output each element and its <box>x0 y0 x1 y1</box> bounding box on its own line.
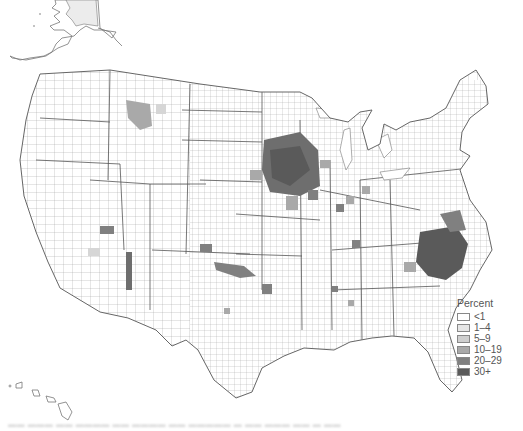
legend-label: <1 <box>474 311 485 322</box>
hawaii-inset <box>9 382 72 420</box>
legend-item: 30+ <box>457 366 523 377</box>
legend-item: <1 <box>457 311 523 322</box>
legend-swatch <box>457 313 470 321</box>
legend-swatch <box>457 368 470 376</box>
legend-item: 10–19 <box>457 344 523 355</box>
legend-swatch <box>457 346 470 354</box>
alaska-inset <box>10 0 122 60</box>
contiguous-us <box>20 70 500 400</box>
legend-item: 20–29 <box>457 355 523 366</box>
legend-label: 20–29 <box>474 355 502 366</box>
choropleth-map <box>0 0 523 431</box>
legend-label: 10–19 <box>474 344 502 355</box>
legend-item: 1–4 <box>457 322 523 333</box>
legend-swatch <box>457 324 470 332</box>
legend-label: 30+ <box>474 366 491 377</box>
legend-swatch <box>457 357 470 365</box>
legend-swatch <box>457 335 470 343</box>
legend-item: 5–9 <box>457 333 523 344</box>
legend-label: 1–4 <box>474 322 491 333</box>
blurred-caption: ▬▬ ▬▬▬ ▬▬ ▬▬▬▬ ▬▬ ▬▬▬▬ ▬▬ ▬▬▬▬▬ ▬ ▬▬ ▬▬▬… <box>8 420 341 429</box>
legend-title: Percent <box>457 297 523 309</box>
legend-label: 5–9 <box>474 333 491 344</box>
map-legend: Percent <1 1–4 5–9 10–19 20–29 30+ <box>457 297 523 377</box>
